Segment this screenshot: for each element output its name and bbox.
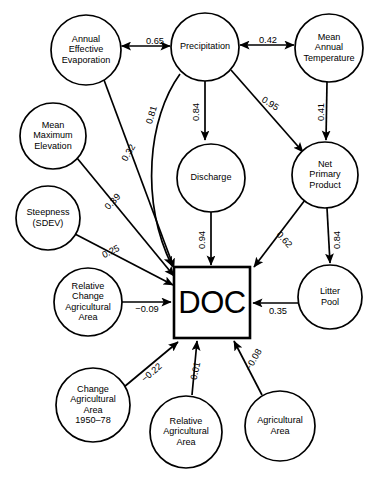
edge-label-e12: 0.84 <box>332 231 342 249</box>
node-litter[interactable]: LitterPool <box>298 265 362 329</box>
edge-label-e4: 0.95 <box>260 94 281 112</box>
node-raa[interactable]: RelativeAgriculturalArea <box>150 396 222 468</box>
edge-label-e16: 0.01 <box>189 361 203 381</box>
edge-label-e14: −0.09 <box>135 304 159 314</box>
edge-label-e2: 0.42 <box>259 35 277 45</box>
node-label-caa: Agricultural <box>70 394 116 404</box>
node-label-steep: (SDEV) <box>33 218 64 228</box>
node-mat[interactable]: MeanAnnualTemperature <box>295 14 363 82</box>
node-label-mme: Elevation <box>34 141 71 151</box>
edge-label-e7: 0.32 <box>120 142 138 163</box>
node-label-caa: Area <box>83 405 103 415</box>
node-label-caa: Change <box>77 384 109 394</box>
node-label-mat: Annual <box>315 42 343 52</box>
edge-npp-to-litter <box>327 208 330 263</box>
node-label-rcaa: Relative <box>72 281 105 291</box>
node-label-aa: Area <box>270 426 290 436</box>
edge-precip-to-npp <box>231 70 303 152</box>
node-label-caa: 1950–78 <box>75 415 110 425</box>
node-rcaa[interactable]: RelativeChangeAgriculturalArea <box>54 268 122 336</box>
edge-label-e6: 0.81 <box>144 105 159 125</box>
edge-aee-to-doc <box>104 80 174 268</box>
node-precip[interactable]: Precipitation <box>171 13 239 81</box>
edges-layer <box>75 45 330 395</box>
node-discharge[interactable]: Discharge <box>177 144 245 212</box>
node-label-aee: Annual <box>72 34 100 44</box>
node-label-precip: Precipitation <box>180 41 230 51</box>
node-doc[interactable]: DOC <box>174 267 250 338</box>
edge-label-e17: −0.08 <box>243 347 263 372</box>
node-steep[interactable]: Steepness(SDEV) <box>16 186 80 250</box>
node-label-raa: Relative <box>170 416 203 426</box>
node-npp[interactable]: NetPrimaryProduct <box>292 142 358 208</box>
node-label-rcaa: Agricultural <box>65 302 111 312</box>
node-caa[interactable]: ChangeAgriculturalArea1950–78 <box>56 368 130 442</box>
node-label-rcaa: Change <box>72 291 104 301</box>
edge-label-e11: 0.62 <box>275 230 295 250</box>
path-diagram-canvas: AnnualEffectiveEvaporationPrecipitationM… <box>0 0 378 481</box>
node-label-mme: Mean <box>42 120 65 130</box>
edge-caa-to-doc <box>124 342 178 387</box>
node-label-aa: Agricultural <box>257 415 303 425</box>
node-label-mme: Maximum <box>33 130 72 140</box>
node-label-mat: Mean <box>318 32 341 42</box>
node-label-steep: Steepness <box>27 207 70 217</box>
node-label-discharge: Discharge <box>191 172 232 182</box>
node-label-npp: Product <box>309 180 341 190</box>
node-label-npp: Primary <box>309 169 341 179</box>
node-label-mat: Temperature <box>303 53 354 63</box>
edge-label-e9: 0.25 <box>100 243 121 260</box>
nodes-layer: AnnualEffectiveEvaporationPrecipitationM… <box>16 13 363 468</box>
node-label-rcaa: Area <box>78 312 98 322</box>
edge-label-e10: 0.94 <box>197 231 207 249</box>
node-label-raa: Agricultural <box>163 426 209 436</box>
node-label-litter: Pool <box>321 297 339 307</box>
node-label-raa: Area <box>176 437 196 447</box>
edge-label-e3: 0.84 <box>191 103 201 121</box>
node-label-npp: Net <box>318 159 333 169</box>
edge-precip-to-doc <box>152 74 180 266</box>
node-label-aee: Effective <box>69 44 104 54</box>
node-label-litter: Litter <box>320 286 340 296</box>
edge-label-e1: 0.65 <box>146 36 164 46</box>
edge-mme-to-doc <box>77 158 174 276</box>
node-label-doc: DOC <box>178 285 246 320</box>
node-mme[interactable]: MeanMaximumElevation <box>20 103 86 169</box>
node-aee[interactable]: AnnualEffectiveEvaporation <box>51 15 121 85</box>
node-aa[interactable]: AgriculturalArea <box>245 391 315 461</box>
edge-label-e13: 0.35 <box>269 306 287 316</box>
edge-label-e5: 0.41 <box>316 103 326 121</box>
node-label-aee: Evaporation <box>62 55 111 65</box>
